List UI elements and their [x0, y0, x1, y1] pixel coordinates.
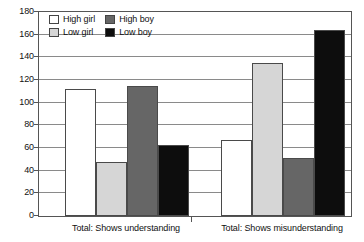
bar	[252, 63, 283, 216]
y-tick-mark	[34, 215, 38, 216]
legend-entry: High boy	[105, 14, 154, 24]
y-tick-mark	[34, 56, 38, 57]
legend-label: High boy	[119, 14, 154, 24]
legend-entry: High girl	[49, 14, 95, 24]
bar	[221, 140, 252, 216]
legend-label: Low girl	[63, 27, 93, 37]
legend-label: High girl	[63, 14, 95, 24]
y-tick-mark	[34, 147, 38, 148]
x-tick-label: Total: Shows understanding	[46, 223, 206, 234]
bar	[65, 89, 96, 216]
x-group-separator-tick	[191, 217, 192, 222]
legend-entry: Low girl	[49, 27, 95, 37]
legend-swatch-icon	[49, 15, 59, 24]
bar	[283, 158, 314, 216]
y-tick-label: 0	[4, 211, 34, 220]
y-tick-mark	[34, 11, 38, 12]
y-tick-label: 40	[4, 166, 34, 175]
y-tick-mark	[34, 124, 38, 125]
y-tick-mark	[34, 102, 38, 103]
bar	[127, 86, 158, 216]
y-tick-label: 140	[4, 52, 34, 61]
y-tick-label: 80	[4, 120, 34, 129]
legend-entry: Low boy	[105, 27, 154, 37]
bar	[96, 162, 127, 216]
legend-label: Low boy	[119, 27, 152, 37]
legend-swatch-icon	[49, 28, 59, 37]
y-tick-label: 20	[4, 188, 34, 197]
legend-swatch-icon	[105, 15, 115, 24]
y-tick-label: 100	[4, 98, 34, 107]
bar	[158, 145, 189, 216]
y-tick-mark	[34, 79, 38, 80]
y-axis: 180160140120100806040200	[0, 11, 34, 217]
y-tick-mark	[34, 170, 38, 171]
y-tick-label: 160	[4, 30, 34, 39]
y-tick-label: 60	[4, 143, 34, 152]
bars-layer	[39, 12, 351, 216]
x-axis: Total: Shows understandingTotal: Shows m…	[38, 223, 352, 239]
chart-legend: High girlHigh boyLow girlLow boy	[49, 14, 154, 37]
y-tick-label: 120	[4, 75, 34, 84]
y-tick-mark	[34, 34, 38, 35]
bar	[314, 30, 345, 216]
x-tick-label: Total: Shows misunderstanding	[202, 223, 362, 234]
bar-chart: 180160140120100806040200 Total: Shows un…	[0, 0, 364, 242]
y-tick-label: 180	[4, 7, 34, 16]
legend-swatch-icon	[105, 28, 115, 37]
y-tick-mark	[34, 192, 38, 193]
